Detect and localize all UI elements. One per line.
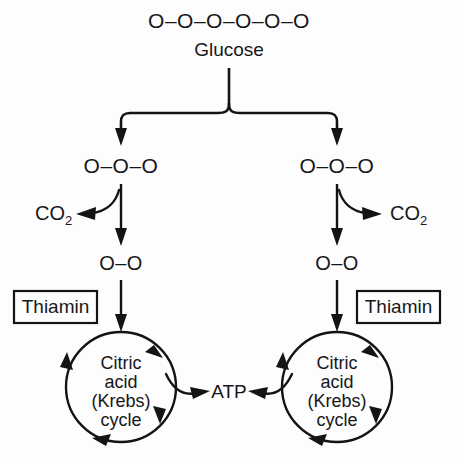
diagram-canvas: O–O–O–O–O–O Glucose O–O–O O–O–O CO2 xyxy=(0,0,458,464)
left-thiamin-box: Thiamin xyxy=(14,291,97,323)
right-cycle-entry-arrow xyxy=(331,280,343,332)
right-thiamin-box: Thiamin xyxy=(357,291,440,323)
right-atp-arrow xyxy=(248,374,292,399)
glucose-chain: O–O–O–O–O–O xyxy=(148,9,310,32)
left-krebs-cycle: Citric acid (Krebs) cycle xyxy=(60,332,176,446)
left-cycle-line-2: acid xyxy=(104,372,137,392)
right-cycle-line-4: cycle xyxy=(316,410,357,430)
right-cycle-arrow-left xyxy=(276,352,289,370)
atp-label: ATP xyxy=(211,381,247,402)
metabolism-diagram: O–O–O–O–O–O Glucose O–O–O O–O–O CO2 xyxy=(0,0,458,464)
right-cycle-line-1: Citric xyxy=(317,353,358,373)
split-brace xyxy=(115,68,343,146)
right-cycle-line-2: acid xyxy=(320,372,353,392)
right-co2-label: CO2 xyxy=(390,202,427,228)
left-cycle-line-1: Citric xyxy=(101,353,142,373)
split-arrow-right xyxy=(331,128,343,146)
left-co2-arrow xyxy=(76,190,119,220)
left-atp-arrow xyxy=(166,374,210,399)
left-cycle-line-3: (Krebs) xyxy=(91,391,150,411)
left-cycle-entry-arrow xyxy=(115,280,127,332)
right-two-carbon-chain: O–O xyxy=(315,252,359,274)
left-thiamin-label: Thiamin xyxy=(22,296,90,317)
right-thiamin-label: Thiamin xyxy=(365,296,433,317)
right-co2-arrow xyxy=(339,190,382,220)
split-arrow-left xyxy=(115,128,127,146)
right-three-carbon-chain: O–O–O xyxy=(300,154,375,177)
left-co2-label: CO2 xyxy=(35,202,72,228)
right-krebs-cycle: Citric acid (Krebs) cycle xyxy=(276,332,392,446)
right-cycle-line-3: (Krebs) xyxy=(307,391,366,411)
left-cycle-arrow-left xyxy=(60,352,73,370)
glucose-label: Glucose xyxy=(194,39,264,60)
left-cycle-line-4: cycle xyxy=(100,410,141,430)
left-two-carbon-chain: O–O xyxy=(99,252,143,274)
left-three-carbon-chain: O–O–O xyxy=(84,154,159,177)
